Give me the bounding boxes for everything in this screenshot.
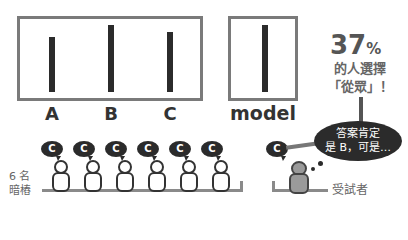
bench-end — [240, 181, 243, 191]
thought-dot-large — [318, 161, 323, 166]
stat-line-1: 的人選擇 — [325, 60, 395, 77]
label-c: C — [160, 103, 180, 124]
confederate-answer-bubble: C — [137, 141, 159, 157]
confederate-answer-bubble: C — [73, 141, 95, 157]
stat-line-2: 「從眾」！ — [320, 78, 400, 95]
label-a: A — [42, 103, 62, 124]
confederate-body — [116, 172, 134, 192]
confederate-body — [212, 172, 230, 192]
subject-body — [289, 173, 309, 194]
stat-percent: 37% — [330, 30, 381, 60]
confederate-answer-bubble: C — [169, 141, 191, 157]
confederate-body — [84, 172, 102, 192]
confederate-answer-bubble: C — [201, 141, 223, 157]
thought-dot-small — [311, 167, 315, 171]
subject-answer-bubble: C — [266, 141, 288, 157]
label-model: model — [228, 102, 298, 124]
line-a — [49, 37, 55, 92]
subject-label: 受試者 — [332, 183, 368, 197]
subject-bench-end — [272, 181, 275, 191]
connector-line — [359, 97, 363, 123]
line-b — [108, 25, 114, 92]
confederates-label: 6 名 暗樁 — [9, 170, 31, 198]
line-c — [167, 32, 173, 92]
confederate-body — [52, 172, 70, 192]
confederate-body — [180, 172, 198, 192]
model-line — [262, 25, 268, 92]
label-b: B — [101, 103, 121, 124]
thought-bubble: 答案肯定 是 B，可是… — [314, 121, 402, 161]
stat-number: 37 — [330, 30, 366, 60]
stat-percent-sign: % — [366, 40, 381, 58]
confederate-answer-bubble: C — [105, 141, 127, 157]
confederate-answer-bubble: C — [41, 141, 63, 157]
confederate-body — [148, 172, 166, 192]
